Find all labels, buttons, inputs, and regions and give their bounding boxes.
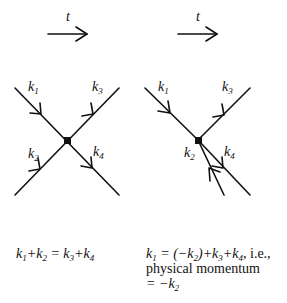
- label-k2-left: k2: [28, 147, 39, 163]
- label-k4-left: k4: [93, 145, 104, 161]
- time-arrow-right-icon: [178, 27, 217, 41]
- label-k1-right: k1: [158, 80, 169, 96]
- arrow-k4-right-icon: [212, 157, 223, 168]
- equation-right-line3: = −k2: [146, 276, 179, 296]
- arrow-k3-icon: [82, 103, 93, 116]
- label-k2-right: k2: [184, 146, 195, 162]
- time-label-left: t: [66, 10, 70, 24]
- label-k3-right: k3: [222, 80, 233, 96]
- equation-right-line2: physical momentum: [146, 261, 260, 276]
- time-label-right: t: [196, 10, 200, 24]
- right-vertex-dot: [195, 137, 202, 144]
- label-k4-right: k4: [224, 145, 235, 161]
- arrow-k3-right-icon: [213, 104, 224, 117]
- equation-left: k1+k2 = k3+k4: [16, 246, 94, 266]
- label-k1-left: k1: [28, 80, 39, 96]
- time-arrow-left-icon: [48, 27, 87, 41]
- label-k3-left: k3: [92, 80, 103, 96]
- left-vertex-dot: [64, 137, 71, 144]
